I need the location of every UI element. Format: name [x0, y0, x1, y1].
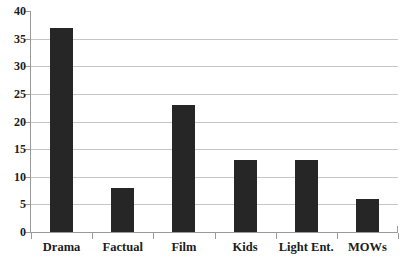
bars-container: [31, 11, 398, 232]
y-axis-tick-label: 0: [4, 226, 26, 238]
y-axis-tick-label: 20: [4, 116, 26, 128]
x-axis-label: Kids: [215, 241, 276, 254]
x-axis-tick: [398, 233, 399, 239]
bar: [356, 199, 379, 232]
x-axis-tick: [276, 233, 277, 239]
y-axis-tick-label: 25: [4, 88, 26, 100]
y-axis-tick-label: 15: [4, 143, 26, 155]
x-axis-tick: [31, 233, 32, 239]
y-axis-tick-label: 40: [4, 5, 26, 17]
bar: [111, 188, 134, 232]
bar: [172, 105, 195, 232]
bar: [295, 160, 318, 232]
x-axis-label: Drama: [31, 241, 92, 254]
x-axis-label: Film: [153, 241, 214, 254]
y-axis-tick-label: 10: [4, 171, 26, 183]
x-axis-label: Factual: [92, 241, 153, 254]
bar: [234, 160, 257, 232]
bar: [50, 28, 73, 232]
x-axis-tick: [337, 233, 338, 239]
y-axis-tick-label: 5: [4, 198, 26, 210]
x-axis-tick: [153, 233, 154, 239]
x-axis-label: MOWs: [337, 241, 398, 254]
bar-chart: 0510152025303540 DramaFactualFilmKidsLig…: [0, 0, 409, 271]
x-axis-tick: [215, 233, 216, 239]
x-axis-label: Light Ent.: [276, 241, 337, 254]
y-axis-tick-label: 30: [4, 60, 26, 72]
y-axis-tick-label: 35: [4, 33, 26, 45]
x-axis-tick: [92, 233, 93, 239]
